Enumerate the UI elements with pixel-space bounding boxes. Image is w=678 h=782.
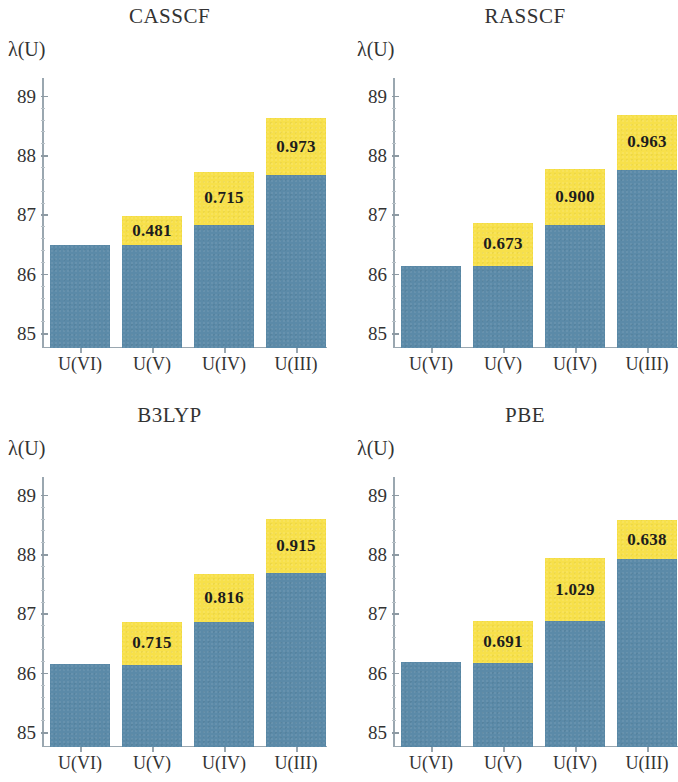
x-tick-mark: [152, 348, 154, 353]
x-tick-mark: [431, 348, 433, 353]
bar-segment-delta: 0.915: [266, 519, 326, 574]
bar-segment-base: [194, 622, 254, 747]
bar-group: 0.715U(IV): [194, 172, 254, 348]
bar-segment-base: [545, 621, 605, 747]
bar-segment-delta: 0.715: [122, 622, 182, 665]
y-axis-label: λ(U): [8, 437, 45, 460]
bar-segment-base: [50, 664, 110, 747]
bar-segment-base: [122, 245, 182, 348]
y-axis-label: λ(U): [357, 38, 394, 61]
x-tick-label: U(III): [266, 354, 326, 375]
x-tick-mark: [647, 348, 649, 353]
x-tick-label: U(V): [473, 753, 533, 774]
x-tick-label: U(V): [122, 354, 182, 375]
plot-area: 8586878889 U(VI)0.715U(V)0.816U(IV)0.915…: [42, 477, 327, 747]
bar-group: 0.638U(III): [617, 520, 677, 747]
bar-value-label: 0.963: [627, 132, 667, 152]
bar-series: U(VI)0.481U(V)0.715U(IV)0.973U(III): [42, 78, 327, 348]
x-tick-mark: [503, 747, 505, 752]
bar-segment-base: [473, 663, 533, 747]
y-tick-label: 88: [17, 545, 36, 564]
bar-group: 0.715U(V): [122, 622, 182, 747]
x-tick-mark: [431, 747, 433, 752]
x-tick-label: U(VI): [401, 753, 461, 774]
x-tick-label: U(III): [617, 753, 677, 774]
x-tick-mark: [224, 348, 226, 353]
bar-segment-delta: 0.973: [266, 118, 326, 176]
x-tick-label: U(V): [122, 753, 182, 774]
x-tick-mark: [575, 747, 577, 752]
y-tick-label: 85: [17, 324, 36, 343]
bar-value-label: 0.973: [276, 137, 316, 157]
y-tick-label: 88: [368, 146, 387, 165]
bar-group: U(VI): [401, 662, 461, 747]
bar-segment-delta: 0.900: [545, 169, 605, 225]
plot-area: 8586878889 U(VI)0.481U(V)0.715U(IV)0.973…: [42, 78, 327, 348]
bar-segment-delta: 1.029: [545, 558, 605, 621]
chart-panel-b3lyp: B3LYP λ(U) 8586878889 U(VI)0.715U(V)0.81…: [0, 391, 339, 782]
bar-segment-base: [122, 665, 182, 747]
x-tick-label: U(V): [473, 354, 533, 375]
bar-group: U(VI): [401, 266, 461, 348]
panel-title: PBE: [435, 403, 615, 428]
bar-segment-base: [473, 266, 533, 348]
bar-value-label: 0.900: [555, 187, 595, 207]
x-tick-label: U(III): [266, 753, 326, 774]
bar-group: 0.816U(IV): [194, 574, 254, 747]
bar-series: U(VI)0.673U(V)0.900U(IV)0.963U(III): [393, 78, 678, 348]
x-tick-mark: [80, 747, 82, 752]
y-tick-label: 86: [17, 264, 36, 283]
y-tick-label: 86: [368, 663, 387, 682]
y-tick-label: 87: [17, 604, 36, 623]
y-tick-label: 88: [17, 146, 36, 165]
y-tick-label: 89: [368, 86, 387, 105]
bar-group: 0.673U(V): [473, 223, 533, 348]
x-tick-mark: [647, 747, 649, 752]
bar-segment-base: [545, 225, 605, 348]
bar-series: U(VI)0.715U(V)0.816U(IV)0.915U(III): [42, 477, 327, 747]
x-tick-label: U(VI): [401, 354, 461, 375]
x-tick-mark: [503, 348, 505, 353]
x-tick-mark: [575, 348, 577, 353]
plot-area: 8586878889 U(VI)0.691U(V)1.029U(IV)0.638…: [393, 477, 678, 747]
y-tick-label: 85: [17, 723, 36, 742]
bar-group: U(VI): [50, 245, 110, 348]
x-tick-label: U(IV): [545, 753, 605, 774]
x-tick-label: U(IV): [545, 354, 605, 375]
bar-segment-base: [50, 245, 110, 348]
bar-segment-delta: 0.963: [617, 115, 677, 170]
bar-segment-base: [617, 559, 677, 747]
bar-segment-delta: 0.715: [194, 172, 254, 225]
bar-segment-base: [401, 662, 461, 747]
x-tick-mark: [296, 747, 298, 752]
bar-value-label: 0.715: [132, 633, 172, 653]
panel-title: RASSCF: [435, 4, 615, 29]
y-tick-label: 85: [368, 723, 387, 742]
chart-panel-rasscf: RASSCF λ(U) 8586878889 U(VI)0.673U(V)0.9…: [339, 0, 678, 391]
x-tick-mark: [80, 348, 82, 353]
chart-panel-casscf: CASSCF λ(U) 8586878889 U(VI)0.481U(V)0.7…: [0, 0, 339, 391]
bar-segment-delta: 0.673: [473, 223, 533, 265]
plot-area: 8586878889 U(VI)0.673U(V)0.900U(IV)0.963…: [393, 78, 678, 348]
y-tick-label: 88: [368, 545, 387, 564]
bar-segment-base: [266, 175, 326, 348]
x-tick-label: U(III): [617, 354, 677, 375]
bar-group: 0.691U(V): [473, 621, 533, 747]
x-tick-label: U(IV): [194, 354, 254, 375]
bar-value-label: 0.915: [276, 536, 316, 556]
y-tick-label: 89: [17, 485, 36, 504]
bar-segment-base: [401, 266, 461, 348]
bar-segment-delta: 0.638: [617, 520, 677, 559]
bar-segment-delta: 0.691: [473, 621, 533, 663]
y-tick-label: 89: [17, 86, 36, 105]
y-tick-label: 89: [368, 485, 387, 504]
panel-title: B3LYP: [0, 403, 339, 428]
bar-value-label: 1.029: [555, 580, 595, 600]
bar-group: 0.481U(V): [122, 216, 182, 348]
bar-value-label: 0.691: [483, 632, 523, 652]
y-axis-label: λ(U): [357, 437, 394, 460]
bar-group: U(VI): [50, 664, 110, 747]
chart-panel-pbe: PBE λ(U) 8586878889 U(VI)0.691U(V)1.029U…: [339, 391, 678, 782]
y-axis-label: λ(U): [8, 38, 45, 61]
x-tick-mark: [296, 348, 298, 353]
